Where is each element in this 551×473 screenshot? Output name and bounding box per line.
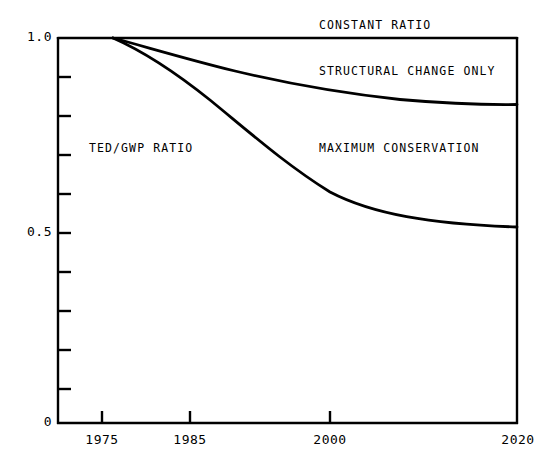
x-tick-label-2000: 2000	[300, 432, 360, 447]
y-tick-label-0: 0	[12, 414, 52, 429]
x-tick-label-2020: 2020	[488, 432, 548, 447]
series-label-structural-change-only: STRUCTURAL CHANGE ONLY	[319, 64, 496, 78]
y-axis-ticks	[58, 77, 71, 389]
y-axis-title: TED/GWP RATIO	[89, 141, 193, 155]
x-tick-label-1975: 1975	[72, 432, 132, 447]
y-tick-label-0-5: 0.5	[12, 224, 52, 239]
x-tick-label-1985: 1985	[160, 432, 220, 447]
y-tick-label-1-0: 1.0	[12, 29, 52, 44]
x-axis-ticks	[102, 411, 330, 423]
series-label-constant-ratio: CONSTANT RATIO	[319, 18, 431, 32]
series-label-maximum-conservation: MAXIMUM CONSERVATION	[319, 141, 479, 155]
chart-figure: 1.0 0.5 0 1975 1985 2000 2020 CONSTANT R…	[0, 0, 551, 473]
